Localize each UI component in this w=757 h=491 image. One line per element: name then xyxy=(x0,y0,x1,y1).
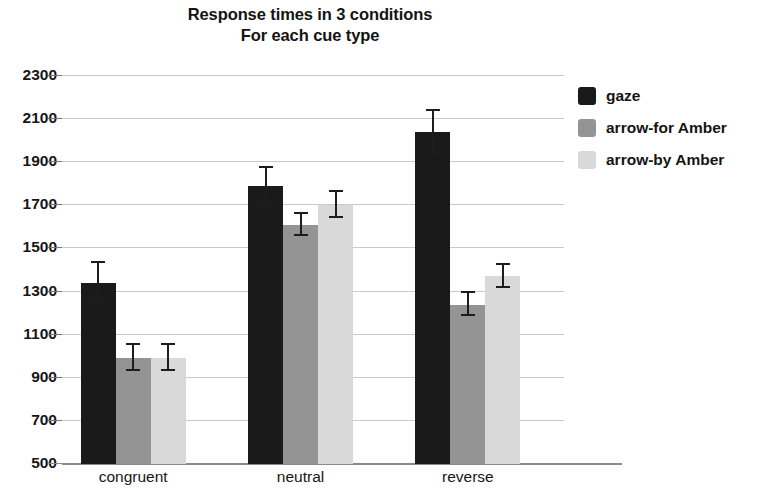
legend-item-gaze[interactable]: gaze xyxy=(578,83,727,109)
bar-neutral-arrow-for-amber xyxy=(283,225,318,464)
bar-congruent-gaze xyxy=(81,283,116,464)
bar-congruent-arrow-for-amber xyxy=(116,358,151,464)
bar-neutral-arrow-by-amber xyxy=(318,205,353,464)
bar-congruent-arrow-by-amber xyxy=(151,358,186,464)
y-axis-tick-mark xyxy=(48,377,62,378)
error-bar-cap-bottom xyxy=(91,300,105,302)
bar-reverse-arrow-by-amber xyxy=(485,276,520,464)
y-axis-tick-mark xyxy=(48,204,62,205)
legend-item-label: arrow-for Amber xyxy=(606,120,727,136)
error-bar-cap-top xyxy=(461,291,475,293)
error-bar-stem xyxy=(265,166,267,205)
chart-title: Response times in 3 conditions For each … xyxy=(110,4,510,46)
legend-swatch-icon xyxy=(578,151,596,169)
legend-item-arrow-for-amber[interactable]: arrow-for Amber xyxy=(578,115,727,141)
error-bar xyxy=(91,261,105,302)
bar-reverse-gaze xyxy=(415,132,450,464)
gridline xyxy=(62,118,564,119)
error-bar xyxy=(294,212,308,236)
bar-reverse-arrow-for-amber xyxy=(450,305,485,465)
error-bar-cap-top xyxy=(91,261,105,263)
error-bar xyxy=(161,343,175,371)
error-bar-stem xyxy=(432,109,434,152)
y-axis-tick-mark xyxy=(48,420,62,421)
plot-area: 2300210019001700150013001100900700500 xyxy=(62,75,564,465)
error-bar xyxy=(126,343,140,371)
error-bar-cap-bottom xyxy=(126,369,140,371)
x-axis-tick-label-reverse: reverse xyxy=(442,468,494,486)
bar-neutral-gaze xyxy=(248,186,283,464)
chart-title-line-2: For each cue type xyxy=(110,25,510,46)
error-bar-cap-top xyxy=(329,190,343,192)
error-bar-cap-top xyxy=(259,166,273,168)
error-bar-cap-bottom xyxy=(294,234,308,236)
gridline xyxy=(62,161,564,162)
error-bar-cap-bottom xyxy=(259,202,273,204)
error-bar-cap-top xyxy=(161,343,175,345)
legend-item-label: arrow-by Amber xyxy=(606,152,724,168)
error-bar-cap-top xyxy=(426,109,440,111)
error-bar-stem xyxy=(467,291,469,317)
error-bar-cap-top xyxy=(294,212,308,214)
y-axis-tick-mark xyxy=(48,463,62,464)
x-axis-tick-label-congruent: congruent xyxy=(99,468,168,486)
y-axis-tick-mark xyxy=(48,118,62,119)
error-bar xyxy=(496,263,510,289)
error-bar-stem xyxy=(97,261,99,302)
error-bar-stem xyxy=(502,263,504,289)
gridline xyxy=(62,75,564,76)
legend-swatch-icon xyxy=(578,119,596,137)
legend-swatch-icon xyxy=(578,87,596,105)
y-axis-tick-mark xyxy=(48,75,62,76)
y-axis-tick-mark xyxy=(48,247,62,248)
error-bar xyxy=(426,109,440,152)
error-bar-cap-top xyxy=(126,343,140,345)
legend-item-arrow-by-amber[interactable]: arrow-by Amber xyxy=(578,147,727,173)
y-axis-tick-mark xyxy=(48,291,62,292)
error-bar-cap-top xyxy=(496,263,510,265)
error-bar-cap-bottom xyxy=(329,216,343,218)
error-bar-stem xyxy=(335,190,337,218)
error-bar-cap-bottom xyxy=(426,151,440,153)
error-bar-cap-bottom xyxy=(161,369,175,371)
error-bar-stem xyxy=(167,343,169,371)
error-bar-cap-bottom xyxy=(461,314,475,316)
gridline xyxy=(62,204,564,205)
legend-item-label: gaze xyxy=(606,88,640,104)
error-bar-cap-bottom xyxy=(496,286,510,288)
error-bar xyxy=(259,166,273,205)
chart-title-line-1: Response times in 3 conditions xyxy=(110,4,510,25)
chart-legend: gazearrow-for Amberarrow-by Amber xyxy=(578,83,727,179)
x-axis-tick-label-neutral: neutral xyxy=(277,468,324,486)
error-bar xyxy=(461,291,475,317)
error-bar xyxy=(329,190,343,218)
error-bar-stem xyxy=(300,212,302,236)
bar-chart-figure: Response times in 3 conditions For each … xyxy=(0,0,757,491)
y-axis-tick-mark xyxy=(48,334,62,335)
y-axis-tick-mark xyxy=(48,161,62,162)
error-bar-stem xyxy=(132,343,134,371)
